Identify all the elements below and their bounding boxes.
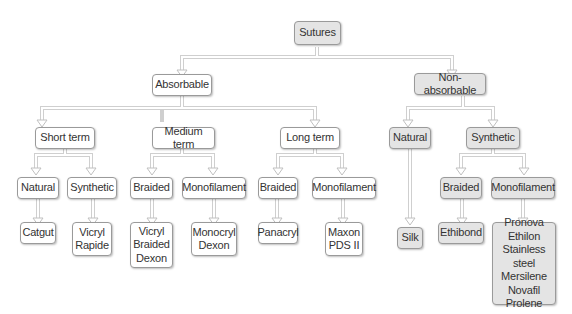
- leaf-monocryl-dexon: Monocryl Dexon: [191, 222, 237, 256]
- node-short-term-synthetic: Synthetic: [67, 177, 117, 199]
- sutures-tree-diagram: Sutures Absorbable Non-absorbable Short …: [0, 0, 572, 314]
- node-nonabsorbable-synthetic: Synthetic: [466, 127, 520, 149]
- node-long-term-monofilament: Monofilament: [312, 177, 376, 199]
- node-short-term: Short term: [35, 127, 95, 149]
- node-non-absorbable: Non-absorbable: [414, 73, 486, 95]
- node-sutures: Sutures: [294, 21, 341, 45]
- node-long-term-braided: Braided: [258, 177, 298, 199]
- node-medium-term-monofilament: Monofilament: [182, 177, 246, 199]
- leaf-ethibond: Ethibond: [438, 222, 484, 244]
- leaf-nonabsorbable-monofilament-list: Pronova Ethilon Stainless steel Mersilen…: [492, 222, 556, 305]
- node-medium-term: Medium term: [152, 127, 215, 149]
- node-short-term-natural: Natural: [17, 177, 59, 199]
- leaf-silk: Silk: [397, 227, 423, 249]
- node-synthetic-braided: Braided: [440, 177, 482, 199]
- node-synthetic-monofilament: Monofilament: [491, 177, 555, 199]
- leaf-catgut: Catgut: [20, 222, 56, 244]
- leaf-panacryl: Panacryl: [258, 222, 298, 244]
- leaf-vicryl-braided-dexon: Vicryl Braided Dexon: [130, 222, 173, 268]
- node-absorbable: Absorbable: [152, 74, 212, 96]
- leaf-vicryl-rapide: Vicryl Rapide: [72, 222, 112, 256]
- node-long-term: Long term: [280, 127, 340, 149]
- leaf-maxon-pds-ii: Maxon PDS II: [325, 222, 363, 256]
- node-nonabsorbable-natural: Natural: [389, 127, 431, 149]
- connector-lines: [0, 0, 572, 314]
- node-medium-term-braided: Braided: [130, 177, 173, 199]
